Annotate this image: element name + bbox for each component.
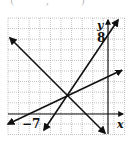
shallow-increasing-line [8, 70, 122, 124]
coordinate-graph: y 8 x −7 [0, 0, 128, 149]
x-tick-label: −7 [22, 117, 40, 131]
y-tick-label: 8 [97, 31, 105, 45]
x-axis-label: x [116, 118, 124, 131]
